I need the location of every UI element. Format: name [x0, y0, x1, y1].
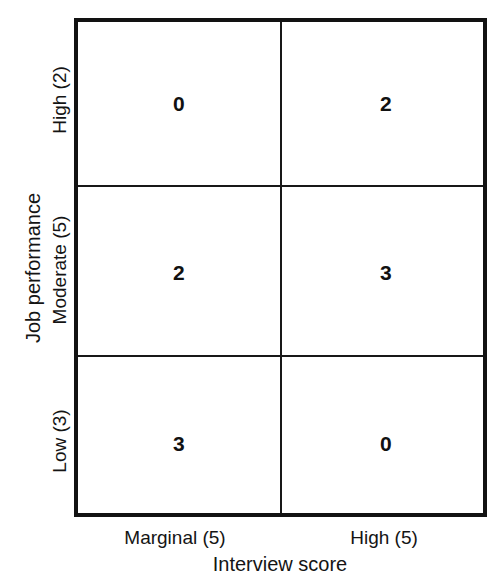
x-axis-tick-high: High (5) — [269, 528, 499, 547]
figure-root: Job performance High (2) Moderate (5) Lo… — [0, 0, 503, 581]
cell-low-high: 0 — [366, 433, 406, 454]
cell-high-marginal: 0 — [159, 93, 199, 114]
y-axis-tick-moderate: Moderate (5) — [50, 175, 72, 365]
x-axis-title: Interview score — [130, 554, 430, 574]
cell-high-high: 2 — [366, 93, 406, 114]
cell-moderate-marginal: 2 — [159, 262, 199, 283]
y-axis-title: Job performance — [23, 138, 47, 398]
x-axis-tick-marginal: Marginal (5) — [60, 528, 290, 547]
cell-low-marginal: 3 — [159, 433, 199, 454]
contingency-grid: 0 2 2 3 3 0 — [74, 18, 487, 517]
y-axis-tick-low: Low (3) — [50, 346, 72, 536]
grid-divider-vertical-1 — [280, 22, 282, 513]
cell-moderate-high: 3 — [366, 262, 406, 283]
y-axis-tick-high: High (2) — [50, 5, 72, 195]
